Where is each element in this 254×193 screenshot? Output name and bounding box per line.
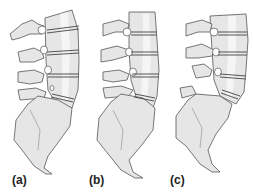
panel-label-b: (b) [89, 173, 104, 187]
panel-label-a: (a) [12, 173, 27, 187]
panel-label-c: (c) [170, 173, 185, 187]
lumbar-spine-illustration-a [0, 0, 84, 193]
lumbar-spine-illustration-b [85, 0, 169, 193]
spine-panel-a: (a) [0, 0, 84, 193]
spine-panel-b: (b) [85, 0, 169, 193]
spine-panel-c: (c) [166, 0, 250, 193]
lumbar-spine-illustration-c [166, 0, 254, 193]
